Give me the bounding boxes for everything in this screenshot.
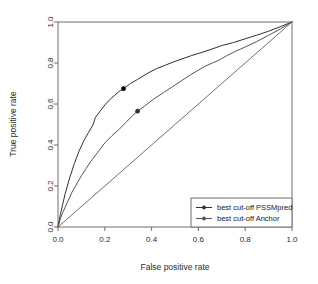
x-tick-label: 0.6 (193, 235, 205, 244)
legend-marker-icon-1 (202, 217, 206, 221)
legend-label-1: best cut-off Anchor (217, 214, 280, 223)
y-tick-label: 0.0 (46, 221, 55, 233)
y-tick-label: 0.6 (46, 98, 55, 110)
x-tick-label: 0.2 (99, 235, 111, 244)
y-axis-ticks: 0.00.20.40.60.81.0 (46, 16, 58, 233)
x-axis-label: False positive rate (141, 262, 210, 272)
x-tick-label: 0.8 (240, 235, 252, 244)
roc-curves (58, 22, 292, 227)
cutoff-marker-anchor (135, 109, 139, 113)
x-tick-label: 0.4 (146, 235, 158, 244)
y-tick-label: 0.4 (46, 139, 55, 151)
y-tick-label: 0.2 (46, 180, 55, 192)
y-tick-label: 1.0 (46, 16, 55, 28)
chart-legend: best cut-off PSSMpredbest cut-off Anchor (191, 198, 292, 227)
cutoff-markers (121, 87, 139, 114)
x-tick-label: 0.0 (52, 235, 64, 244)
x-tick-label: 1.0 (286, 235, 298, 244)
legend-label-0: best cut-off PSSMpred (217, 203, 292, 212)
roc-plot-svg: 0.00.20.40.60.81.0 0.00.20.40.60.81.0 Fa… (0, 0, 318, 284)
y-axis-label: True positive rate (8, 91, 18, 157)
cutoff-marker-pssmpred (121, 87, 125, 91)
y-tick-label: 0.8 (46, 57, 55, 69)
roc-chart: 0.00.20.40.60.81.0 0.00.20.40.60.81.0 Fa… (0, 0, 318, 284)
legend-marker-icon-0 (202, 206, 206, 210)
x-axis-ticks: 0.00.20.40.60.81.0 (52, 227, 298, 244)
